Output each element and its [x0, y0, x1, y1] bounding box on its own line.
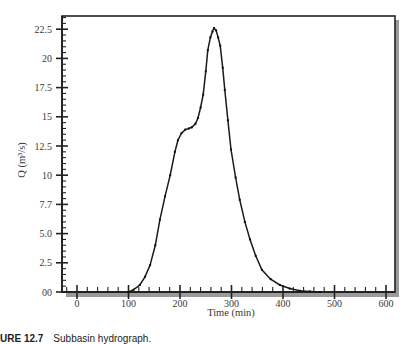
y-tick-label: 5.0 — [40, 228, 53, 239]
y-tick-label: 2.5 — [40, 257, 53, 268]
x-tick-label: 500 — [327, 298, 342, 309]
figure-caption-text: Subbasin hydrograph. — [53, 333, 151, 344]
x-tick-label: 400 — [276, 298, 291, 309]
x-tick-label: 100 — [121, 298, 136, 309]
x-tick-label: 200 — [173, 298, 188, 309]
y-tick-label: 20 — [42, 53, 52, 64]
x-tick-label: 0 — [75, 298, 80, 309]
figure-caption: URE 12.7Subbasin hydrograph. — [0, 333, 151, 344]
y-axis-title: Q (m³/s) — [16, 142, 28, 178]
y-tick-label: 15 — [42, 111, 52, 122]
y-tick-label: 12.5 — [35, 141, 53, 152]
figure-label: URE 12.7 — [0, 333, 43, 344]
y-tick-label: 22.5 — [35, 24, 53, 35]
x-tick-label: 600 — [379, 298, 394, 309]
y-tick-label: 7.7 — [40, 199, 53, 210]
y-tick-label: 10 — [42, 170, 52, 181]
y-tick-label: 00 — [42, 287, 52, 298]
plot-frame — [62, 16, 395, 292]
x-axis-title: Time (min) — [207, 307, 255, 319]
y-tick-label: 17.5 — [35, 82, 53, 93]
